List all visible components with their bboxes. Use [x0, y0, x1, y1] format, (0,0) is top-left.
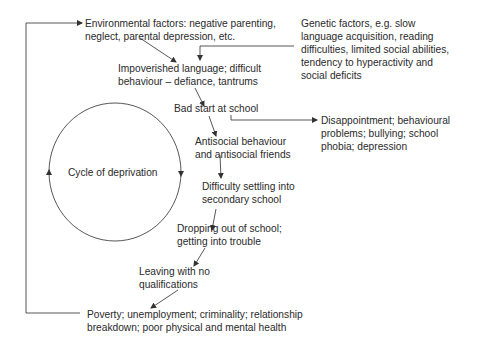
node-line: Bad start at school	[174, 102, 258, 115]
node-line: social deficits	[301, 69, 449, 82]
node-line: problems; bullying; school	[321, 127, 450, 140]
dropping-arrow	[194, 248, 205, 266]
node-impoverished: Impoverished language; difficult behavio…	[118, 62, 261, 88]
node-line: behaviour – defiance, tantrums	[118, 75, 261, 88]
genetic-arrow	[200, 46, 294, 60]
node-line: and antisocial friends	[195, 148, 291, 161]
node-line: Antisocial behaviour	[195, 135, 291, 148]
node-line: Disappointment; behavioural	[321, 114, 450, 127]
node-line: phobia; depression	[321, 140, 450, 153]
node-genetic: Genetic factors, e.g. slow language acqu…	[301, 17, 449, 82]
node-line: qualifications	[139, 278, 210, 291]
node-antisocial: Antisocial behaviour and antisocial frie…	[195, 135, 291, 161]
node-poverty: Poverty; unemployment; criminality; rela…	[87, 308, 303, 334]
badstart-arrow	[209, 116, 216, 136]
node-line: difficulties, limited social abilities,	[301, 43, 449, 56]
node-disappointment: Disappointment; behavioural problems; bu…	[321, 114, 450, 153]
node-line: Dropping out of school;	[177, 222, 282, 235]
node-line: Environmental factors: negative parentin…	[85, 17, 276, 30]
node-dropping: Dropping out of school; getting into tro…	[177, 222, 282, 248]
node-line: secondary school	[202, 193, 295, 206]
node-leaving: Leaving with no qualifications	[139, 265, 210, 291]
node-line: neglect, parental depression, etc.	[85, 30, 276, 43]
node-line: Poverty; unemployment; criminality; rela…	[87, 308, 303, 321]
leaving-arrow	[151, 290, 178, 308]
disappointment-arrow	[231, 115, 317, 120]
node-line: Leaving with no	[139, 265, 210, 278]
node-line: getting into trouble	[177, 235, 282, 248]
node-line: language acquisition, reading	[301, 30, 449, 43]
node-line: Impoverished language; difficult	[118, 62, 261, 75]
node-line: breakdown; poor physical and mental heal…	[87, 321, 303, 334]
node-line: Difficulty settling into	[202, 180, 295, 193]
node-bad-start: Bad start at school	[174, 102, 258, 115]
node-line: tendency to hyperactivity and	[301, 56, 449, 69]
node-environmental: Environmental factors: negative parentin…	[85, 17, 276, 43]
node-line: Genetic factors, e.g. slow	[301, 17, 449, 30]
cycle-down-arrow-icon	[178, 171, 184, 177]
node-difficulty: Difficulty settling into secondary schoo…	[202, 180, 295, 206]
center-label: Cycle of deprivation	[68, 166, 157, 179]
cycle-up-arrow-icon	[46, 169, 52, 175]
